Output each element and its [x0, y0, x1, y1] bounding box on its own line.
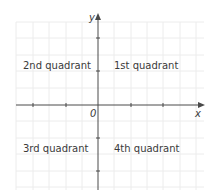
quadrant-2-label: 2nd quadrant	[23, 60, 91, 71]
quadrant-1-label: 1st quadrant	[114, 60, 178, 71]
y-axis-label: y	[88, 12, 96, 23]
origin-label: 0	[90, 108, 96, 119]
grid	[16, 22, 204, 190]
y-axis-arrow-icon	[95, 13, 101, 20]
x-axis-label: x	[194, 108, 201, 119]
quadrant-3-label: 3rd quadrant	[23, 143, 89, 154]
quadrant-4-label: 4th quadrant	[114, 143, 180, 154]
coordinate-plane: y x 0 2nd quadrant 1st quadrant 3rd quad…	[0, 0, 217, 196]
